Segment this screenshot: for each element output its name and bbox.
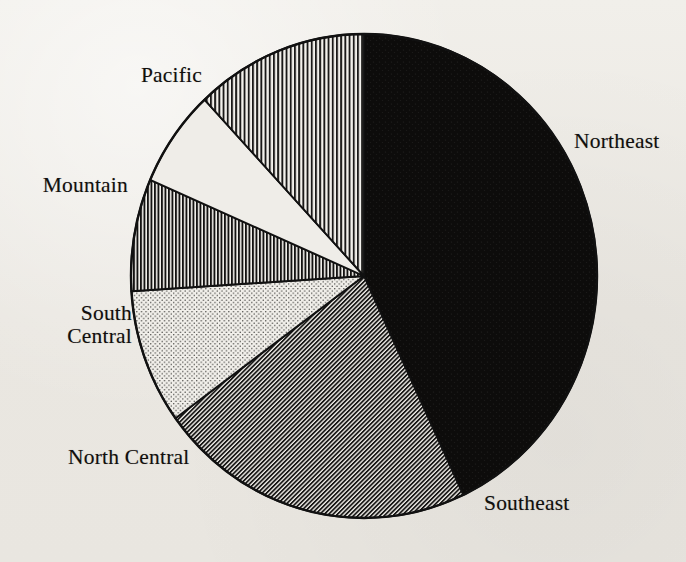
pie-label-mountain: Mountain <box>0 174 128 197</box>
pie-slice-group <box>131 34 597 518</box>
pie-label-north-central: North Central <box>68 446 189 469</box>
pie-label-southeast: Southeast <box>484 492 569 515</box>
pie-chart-figure: Northeast Southeast North Central South … <box>0 0 686 562</box>
pie-label-pacific: Pacific <box>0 64 202 87</box>
pie-label-south-central: South Central <box>0 302 132 348</box>
pie-label-northeast: Northeast <box>574 130 659 153</box>
